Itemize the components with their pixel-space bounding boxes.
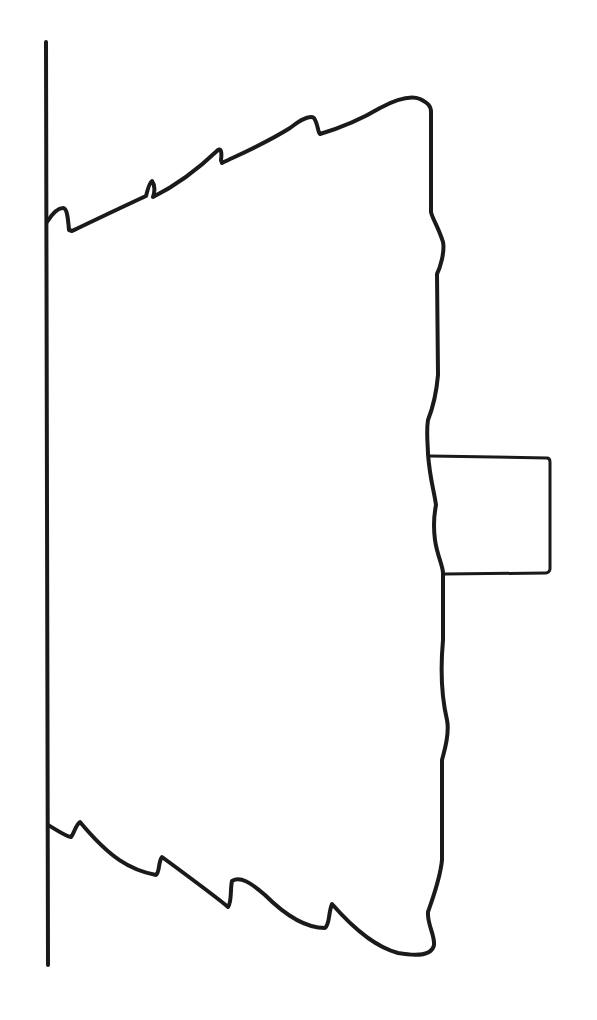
background <box>0 0 597 1020</box>
line-drawing-canvas <box>0 0 597 1020</box>
